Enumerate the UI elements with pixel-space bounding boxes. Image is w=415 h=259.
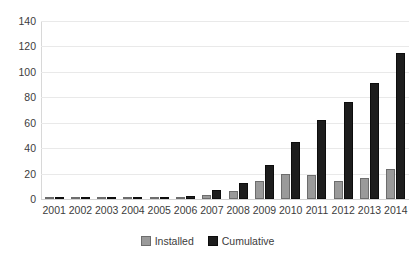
y-tick-label-20: 20 xyxy=(4,168,36,179)
bar-installed-2002[interactable] xyxy=(71,197,80,199)
bar-cumulative-2001[interactable] xyxy=(55,197,64,199)
bar-cumulative-2002[interactable] xyxy=(81,197,90,199)
bar-group-2014 xyxy=(383,21,409,199)
y-tick-label-140: 140 xyxy=(4,16,36,27)
bar-groups xyxy=(41,21,409,199)
bar-installed-2012[interactable] xyxy=(334,181,343,199)
x-tick-label-2005: 2005 xyxy=(146,203,172,217)
x-tick-label-2001: 2001 xyxy=(41,203,67,217)
y-tick-label-40: 40 xyxy=(4,143,36,154)
bar-installed-2001[interactable] xyxy=(45,197,54,199)
bar-group-2001 xyxy=(41,21,67,199)
bar-installed-2010[interactable] xyxy=(281,174,290,199)
x-tick-label-2011: 2011 xyxy=(304,203,330,217)
bar-installed-2011[interactable] xyxy=(307,175,316,199)
bar-installed-2007[interactable] xyxy=(202,195,211,199)
legend-item-cumulative[interactable]: Cumulative xyxy=(208,235,275,247)
x-tick-label-2013: 2013 xyxy=(356,203,382,217)
legend-item-installed[interactable]: Installed xyxy=(141,235,194,247)
bar-cumulative-2014[interactable] xyxy=(396,53,405,199)
x-tick-label-2008: 2008 xyxy=(225,203,251,217)
x-tick-label-2006: 2006 xyxy=(172,203,198,217)
x-tick-label-2007: 2007 xyxy=(199,203,225,217)
bar-group-2009 xyxy=(251,21,277,199)
bar-installed-2013[interactable] xyxy=(360,178,369,199)
bar-group-2013 xyxy=(356,21,382,199)
bar-group-2004 xyxy=(120,21,146,199)
bar-cumulative-2005[interactable] xyxy=(160,197,169,199)
legend-label: Installed xyxy=(155,235,194,247)
bar-cumulative-2010[interactable] xyxy=(291,142,300,199)
bar-group-2005 xyxy=(146,21,172,199)
legend-label: Cumulative xyxy=(222,235,275,247)
x-tick-label-2009: 2009 xyxy=(251,203,277,217)
plot-area xyxy=(41,21,409,199)
chart-legend: InstalledCumulative xyxy=(0,235,415,247)
bar-chart: 020406080100120140 200120022003200420052… xyxy=(0,0,415,259)
bar-group-2003 xyxy=(94,21,120,199)
bar-installed-2005[interactable] xyxy=(150,197,159,199)
y-tick-label-0: 0 xyxy=(4,194,36,205)
bar-cumulative-2013[interactable] xyxy=(370,83,379,199)
x-tick-label-2004: 2004 xyxy=(120,203,146,217)
bar-installed-2004[interactable] xyxy=(123,197,132,199)
bar-group-2010 xyxy=(278,21,304,199)
bar-group-2006 xyxy=(172,21,198,199)
x-tick-label-2010: 2010 xyxy=(278,203,304,217)
y-tick-label-120: 120 xyxy=(4,41,36,52)
bar-cumulative-2007[interactable] xyxy=(212,190,221,199)
bar-cumulative-2008[interactable] xyxy=(239,183,248,199)
y-axis-tick-labels: 020406080100120140 xyxy=(0,21,36,199)
y-tick-label-80: 80 xyxy=(4,92,36,103)
bar-cumulative-2012[interactable] xyxy=(344,102,353,199)
bar-group-2008 xyxy=(225,21,251,199)
bar-cumulative-2009[interactable] xyxy=(265,165,274,199)
x-tick-label-2012: 2012 xyxy=(330,203,356,217)
y-tick-label-60: 60 xyxy=(4,117,36,128)
bar-cumulative-2011[interactable] xyxy=(317,120,326,199)
bar-installed-2008[interactable] xyxy=(229,191,238,199)
legend-swatch-installed-icon xyxy=(141,236,151,246)
bar-installed-2009[interactable] xyxy=(255,181,264,199)
bar-installed-2006[interactable] xyxy=(176,197,185,199)
bar-cumulative-2004[interactable] xyxy=(133,197,142,199)
x-axis-tick-labels: 2001200220032004200520062007200820092010… xyxy=(41,203,409,217)
bar-group-2011 xyxy=(304,21,330,199)
bar-group-2002 xyxy=(67,21,93,199)
bar-installed-2014[interactable] xyxy=(386,169,395,199)
y-tick-label-100: 100 xyxy=(4,67,36,78)
x-tick-label-2002: 2002 xyxy=(67,203,93,217)
bar-group-2007 xyxy=(199,21,225,199)
bar-installed-2003[interactable] xyxy=(97,197,106,199)
x-tick-label-2003: 2003 xyxy=(94,203,120,217)
gridline-0 xyxy=(41,199,409,200)
bar-cumulative-2003[interactable] xyxy=(107,197,116,199)
bar-group-2012 xyxy=(330,21,356,199)
bar-cumulative-2006[interactable] xyxy=(186,196,195,199)
legend-swatch-cumulative-icon xyxy=(208,236,218,246)
x-tick-label-2014: 2014 xyxy=(383,203,409,217)
